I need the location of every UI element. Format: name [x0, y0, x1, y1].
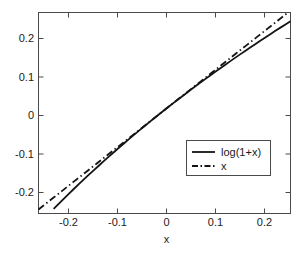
x-tick-labels: -0.2 -0.1 0 0.1 0.2 — [59, 216, 272, 228]
y-tick-label: -0.2 — [15, 186, 34, 198]
legend-label-x: x — [221, 160, 227, 172]
x-tick-label: -0.2 — [59, 216, 78, 228]
x-tick-label: 0.1 — [208, 216, 223, 228]
x-axis-ticks — [69, 13, 265, 214]
y-tick-label: 0.1 — [19, 71, 34, 83]
y-tick-label: -0.1 — [15, 148, 34, 160]
y-tick-label: 0 — [28, 109, 34, 121]
series-line-log1px — [54, 21, 291, 209]
legend-label-log1px: log(1+x) — [221, 146, 261, 158]
figure-container: 0.2 0.1 0 -0.1 -0.2 -0.2 -0.1 0 0.1 0.2 … — [0, 0, 308, 255]
x-tick-label: 0 — [163, 216, 169, 228]
x-tick-label: -0.1 — [108, 216, 127, 228]
line-chart: 0.2 0.1 0 -0.1 -0.2 -0.2 -0.1 0 0.1 0.2 … — [0, 0, 308, 255]
series-group — [39, 13, 291, 210]
plot-frame — [39, 13, 291, 214]
x-axis-label: x — [164, 233, 170, 245]
y-tick-labels: 0.2 0.1 0 -0.1 -0.2 — [15, 32, 34, 198]
x-tick-label: 0.2 — [257, 216, 272, 228]
y-tick-label: 0.2 — [19, 32, 34, 44]
legend[interactable]: log(1+x) x — [187, 141, 271, 176]
